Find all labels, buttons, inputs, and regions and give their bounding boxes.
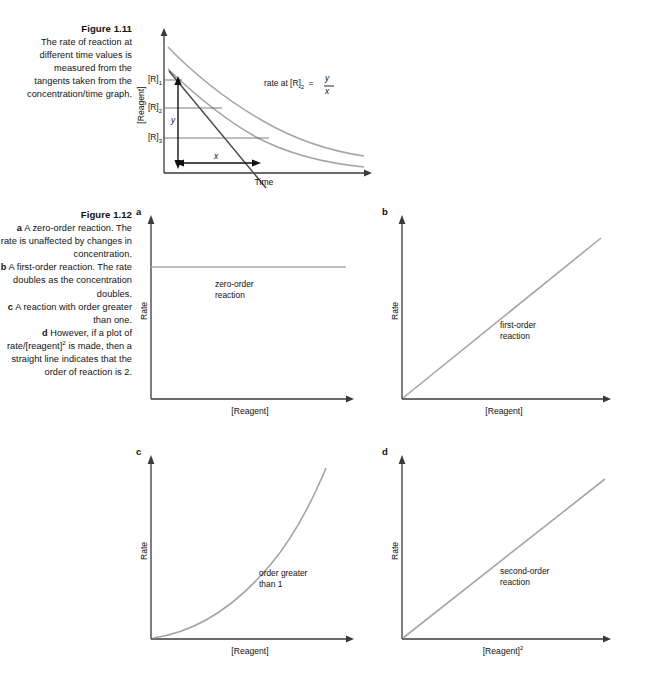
- caption-item-text: However, if a plot of rate/[reagent]2 is…: [7, 328, 132, 377]
- panel-b-note: first-order reaction: [500, 320, 536, 343]
- caption-item-letter: c: [8, 302, 13, 312]
- second-order-line: [403, 479, 605, 638]
- panel-c-x-axis-label: [Reagent]: [218, 646, 282, 656]
- panel-d-x-axis-label: [Reagent]2: [468, 646, 538, 656]
- x-axis-arrowhead: [346, 396, 354, 403]
- figure-1-11-plot: [138, 20, 378, 200]
- caption-line: measured from the: [6, 62, 132, 75]
- order-greater-than-one-curve: [153, 468, 326, 638]
- caption-item-d: d However, if a plot of rate/[reagent]2 …: [0, 327, 132, 379]
- figure-1-11-title: Figure 1.11: [6, 22, 132, 35]
- caption-item-c: c A reaction with order greater than one…: [0, 301, 132, 327]
- panel-a-x-axis-label: [Reagent]: [218, 406, 282, 416]
- y-measure-label: y: [171, 115, 175, 126]
- caption-item-text: A first-order reaction. The rate doubles…: [9, 262, 132, 298]
- caption-item-text: A reaction with order greater than one.: [15, 302, 132, 325]
- caption-item-b: b A first-order reaction. The rate doubl…: [0, 261, 132, 300]
- caption-line: tangents taken from the: [6, 75, 132, 88]
- rate-fraction-numerator: y: [325, 73, 329, 84]
- x-axis-arrowhead: [364, 170, 372, 177]
- panel-d-y-axis-label: Rate: [390, 526, 400, 576]
- y-axis-arrowhead: [399, 455, 406, 464]
- y-axis-arrowhead: [161, 28, 168, 36]
- panel-c-y-axis-label: Rate: [139, 526, 149, 576]
- x-measure-label: x: [214, 151, 218, 162]
- figure-1-12-panel-b: b first-order reaction [Reagent] Rate: [382, 206, 654, 441]
- figure-1-12-title: Figure 1.12: [0, 208, 132, 221]
- caption-item-letter: a: [17, 223, 22, 233]
- x-axis-label: Time: [234, 177, 294, 187]
- caption-item-letter: d: [42, 328, 48, 338]
- first-order-line: [403, 238, 601, 398]
- y-axis-label: [Reagent]: [136, 75, 146, 135]
- rate-fraction-denominator: x: [325, 86, 329, 97]
- caption-item-a: a A zero-order reaction. The rate is una…: [0, 222, 132, 261]
- caption-line: The rate of reaction at: [6, 36, 132, 49]
- panel-a-note: zero-order reaction: [215, 279, 254, 302]
- x-axis-arrowhead: [603, 396, 611, 403]
- upper-decay-curve: [168, 47, 364, 156]
- y-axis-arrowhead: [148, 215, 155, 224]
- panel-b-x-axis-label: [Reagent]: [472, 406, 536, 416]
- figure-1-12-panel-c: c order greater than 1 [Reagent] Rate: [136, 446, 361, 686]
- y-axis-arrowhead: [148, 455, 155, 464]
- figure-1-12-caption: Figure 1.12 a A zero-order reaction. The…: [0, 208, 132, 379]
- panel-b-y-axis-label: Rate: [390, 286, 400, 336]
- caption-line: concentration/time graph.: [6, 88, 132, 101]
- y-axis-arrowhead: [399, 215, 406, 224]
- caption-line: different time values is: [6, 49, 132, 62]
- tangent-line: [169, 71, 266, 188]
- panel-d-note: second-order reaction: [500, 566, 549, 589]
- figure-1-12-panel-d: d second-order reaction [Reagent]2 Rate: [382, 446, 654, 686]
- figure-1-11-caption: Figure 1.11 The rate of reaction at diff…: [6, 22, 132, 102]
- panel-c-note: order greater than 1: [259, 568, 307, 591]
- figure-1-12-panel-a: a zero-order reaction [Reagent] Rate: [136, 206, 361, 441]
- panel-a-y-axis-label: Rate: [139, 286, 149, 336]
- x-measure-arrowhead-right: [252, 159, 261, 166]
- figure-1-11-graph: [R]1 [R]2 [R]3 y x rate at [R]2 = y x Ti…: [138, 20, 378, 200]
- x-axis-arrowhead: [603, 636, 611, 643]
- rate-expression: rate at [R]2 =: [264, 78, 313, 93]
- x-axis-arrowhead: [346, 636, 354, 643]
- caption-item-letter: b: [1, 262, 7, 272]
